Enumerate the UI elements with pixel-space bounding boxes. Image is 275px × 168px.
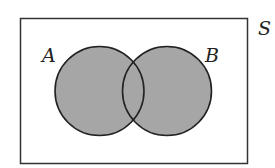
set-b-label: B bbox=[204, 44, 219, 66]
venn-diagram: A B S bbox=[0, 0, 275, 168]
set-a-label: A bbox=[40, 44, 56, 66]
universe-label: S bbox=[258, 17, 271, 39]
